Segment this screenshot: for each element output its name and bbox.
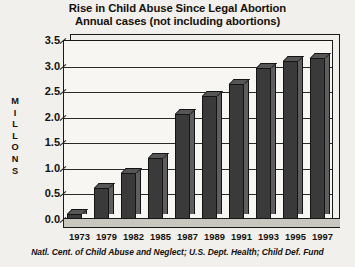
- bar-front-face: [202, 96, 218, 219]
- bar: [256, 68, 272, 219]
- bar: [310, 58, 326, 219]
- bar-front-face: [283, 61, 299, 220]
- chart-floor: [63, 219, 340, 228]
- bar-front-face: [121, 173, 137, 219]
- y-axis-tick-label: 1.5: [20, 136, 60, 148]
- bar: [148, 158, 164, 219]
- chart-subtitle: Annual cases (not including abortions): [0, 15, 355, 28]
- bar: [202, 96, 218, 219]
- x-axis-tick-label: 1991: [231, 231, 252, 242]
- y-axis-tick-label: 3.0: [20, 60, 60, 72]
- x-axis-tick-label: 1982: [123, 231, 144, 242]
- bar-front-face: [256, 68, 272, 219]
- x-axis-tick-label: 1995: [285, 231, 306, 242]
- bar: [121, 173, 137, 219]
- y-axis-ticks: 3.53.02.52.01.51.00.50.0: [18, 40, 60, 219]
- bar-front-face: [94, 188, 110, 219]
- bar-front-face: [310, 58, 326, 219]
- bar-side-face: [244, 79, 249, 215]
- x-axis-tick-label: 1973: [69, 231, 90, 242]
- y-axis-tick-label: 1.0: [20, 162, 60, 174]
- bar-side-face: [190, 109, 195, 214]
- x-axis-ticks: 1973197919821985198719891991199319951997: [63, 231, 340, 245]
- chart-source: Natl. Cent. of Child Abuse and Neglect; …: [0, 247, 355, 257]
- bar-side-face: [109, 183, 114, 214]
- bar-front-face: [175, 114, 191, 219]
- bars-layer: [63, 40, 333, 219]
- bar-front-face: [229, 84, 245, 220]
- chart-container: Rise in Child Abuse Since Legal Abortion…: [0, 0, 355, 267]
- bar-side-face: [325, 53, 330, 214]
- bar-side-face: [136, 168, 141, 214]
- bar: [229, 84, 245, 220]
- y-axis-tick-label: 0.0: [20, 213, 60, 225]
- x-axis-tick-label: 1997: [312, 231, 333, 242]
- page-title: Rise in Child Abuse Since Legal Abortion: [0, 2, 355, 15]
- bar-side-face: [271, 63, 276, 214]
- bar-side-face: [163, 153, 168, 214]
- y-axis-tick-label: 2.0: [20, 111, 60, 123]
- y-axis-tick-label: 3.5: [20, 34, 60, 46]
- x-axis-tick-label: 1989: [204, 231, 225, 242]
- bar: [94, 188, 110, 219]
- plot-frame-3d-right: [333, 34, 340, 219]
- bar-side-face: [217, 91, 222, 214]
- y-axis-tick-label: 0.5: [20, 187, 60, 199]
- y-axis-tick-label: 2.5: [20, 85, 60, 97]
- x-axis-tick-label: 1993: [258, 231, 279, 242]
- bar: [175, 114, 191, 219]
- bar-side-face: [298, 56, 303, 215]
- bar: [283, 61, 299, 220]
- x-axis-tick-label: 1985: [150, 231, 171, 242]
- x-axis-tick-label: 1979: [96, 231, 117, 242]
- chart-title-block: Rise in Child Abuse Since Legal Abortion…: [0, 2, 355, 28]
- x-axis-tick-label: 1987: [177, 231, 198, 242]
- bar-front-face: [148, 158, 164, 219]
